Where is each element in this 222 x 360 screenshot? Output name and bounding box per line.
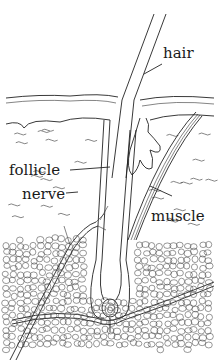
fat-cell [171, 286, 178, 293]
fat-cell [171, 290, 177, 297]
fat-cell [185, 334, 191, 340]
fat-cell [179, 300, 185, 306]
fat-cell [4, 263, 10, 268]
fat-cell [141, 327, 148, 332]
fat-cell [30, 242, 36, 248]
fat-cell [88, 328, 95, 334]
fat-cell [200, 265, 207, 271]
fat-cell [177, 340, 184, 347]
fat-cell [79, 286, 86, 293]
fat-cell [80, 298, 87, 305]
fat-cell [72, 271, 79, 276]
fat-cells [2, 235, 214, 353]
fat-cell [44, 335, 51, 341]
fat-cell [156, 292, 163, 299]
fat-cell [65, 312, 71, 318]
fat-cell [9, 277, 15, 283]
fat-cell [64, 342, 72, 348]
fiber-dash [16, 142, 28, 144]
fiber-dash [42, 129, 54, 131]
fiber-dash [41, 205, 53, 207]
fat-cell [57, 305, 64, 312]
fat-cell [57, 251, 65, 257]
fat-cell [185, 319, 192, 326]
fat-cell [192, 333, 199, 339]
fat-cell [178, 329, 185, 335]
fat-cell [52, 319, 59, 325]
fiber-dash [85, 139, 97, 141]
fat-cell [9, 312, 15, 318]
fat-cell [148, 265, 156, 270]
fat-cell [58, 244, 65, 250]
fat-cell [149, 270, 156, 277]
fat-cell [150, 277, 156, 283]
fat-cell [72, 334, 78, 339]
fat-cell [64, 272, 71, 278]
fat-cell [178, 249, 184, 255]
fat-cell [156, 250, 163, 256]
fat-cell [45, 242, 51, 249]
fiber-dash [58, 213, 70, 215]
fat-cell [17, 300, 25, 306]
fiber-dash [46, 139, 58, 141]
fat-cell [29, 285, 36, 290]
fat-cell [135, 327, 142, 334]
fat-cell [197, 305, 204, 311]
fat-cell [46, 305, 53, 310]
fat-cell [38, 277, 45, 283]
fat-cell [29, 342, 37, 348]
nerve-fiber [10, 206, 108, 360]
fat-cell [78, 307, 85, 312]
fat-cell [191, 318, 198, 325]
fiber-dash [205, 179, 217, 181]
fat-cell [94, 333, 101, 339]
hair-shaft [112, 14, 166, 178]
fat-cell [30, 249, 36, 255]
fat-cell [141, 258, 148, 264]
fat-cell [60, 291, 66, 297]
fat-cell [100, 334, 107, 340]
fat-cell [81, 270, 87, 277]
fat-cell [171, 336, 177, 342]
fat-cell [163, 291, 170, 297]
fat-cell [45, 265, 53, 271]
fat-cell [3, 256, 9, 263]
fat-cell [78, 341, 85, 347]
fat-cell [184, 243, 191, 248]
fat-cell [64, 333, 71, 338]
fiber-dash [199, 133, 211, 135]
fat-cell [25, 285, 31, 291]
fat-cell [179, 306, 186, 312]
fat-cell [59, 284, 65, 290]
fat-cell [9, 342, 15, 348]
fat-cell [74, 320, 80, 325]
fat-cell [136, 263, 143, 269]
fat-cell [185, 311, 191, 317]
fat-cell [129, 298, 136, 303]
fiber-dash [166, 134, 178, 136]
fat-cell [165, 341, 171, 347]
fat-cell [30, 328, 37, 334]
fat-cell [38, 319, 45, 325]
fat-cell [156, 243, 162, 250]
leader-lines [66, 64, 172, 196]
fat-cell [204, 250, 211, 255]
fat-cell [205, 342, 212, 348]
label-nerve: nerve [22, 187, 65, 202]
fat-cell [171, 320, 178, 326]
fat-cell [184, 263, 190, 269]
fat-cell [107, 341, 115, 346]
fat-cell [51, 327, 58, 334]
fat-cell [179, 278, 185, 285]
fat-cell [31, 278, 38, 283]
fat-cell [192, 306, 199, 312]
fat-cell [157, 264, 164, 269]
fiber-dash [38, 131, 50, 133]
fat-cell [199, 340, 206, 346]
fat-cell [2, 347, 9, 353]
fat-cell [23, 306, 29, 312]
fat-cell [135, 278, 142, 284]
vessel [12, 282, 214, 321]
fat-cell [80, 250, 87, 256]
fat-cell [205, 291, 212, 296]
